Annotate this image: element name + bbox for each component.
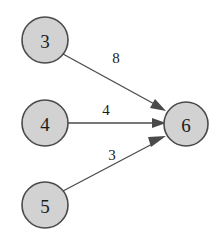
edge-weight-group: 8 4 3: [102, 50, 120, 163]
edge-line: [63, 54, 158, 106]
node-label: 5: [40, 196, 50, 217]
node-4[interactable]: 4: [22, 100, 68, 146]
arrowhead-icon: [150, 99, 166, 111]
graph-canvas: 8 4 3 3 4 5 6: [0, 0, 218, 236]
edge-weight-4-6: 4: [102, 102, 110, 118]
edge-weight-3-6: 8: [112, 50, 120, 66]
edge-4-to-6: [68, 118, 166, 128]
node-label: 4: [40, 114, 50, 135]
graph-diagram: 8 4 3 3 4 5 6: [0, 0, 218, 236]
arrowhead-icon: [148, 136, 166, 147]
node-6[interactable]: 6: [164, 102, 208, 146]
edge-weight-5-6: 3: [108, 147, 116, 163]
node-label: 6: [181, 115, 191, 136]
edge-group: [63, 54, 166, 191]
node-3[interactable]: 3: [22, 17, 68, 63]
edge-5-to-6: [63, 136, 166, 191]
node-5[interactable]: 5: [22, 182, 68, 228]
node-label: 3: [40, 31, 50, 52]
